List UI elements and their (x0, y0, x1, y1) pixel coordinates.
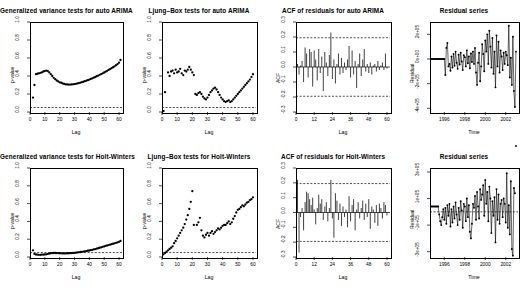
y-tick-label: 0.4 (15, 65, 20, 83)
plot-canvas (0, 0, 132, 146)
y-tick-label: 1.0 (15, 157, 20, 175)
y-tick-label: -2e+05 (415, 72, 420, 90)
y-tick-label: 1.0 (15, 11, 20, 29)
y-tick-label: 1.0 (147, 11, 152, 29)
x-tick-label: 60 (105, 262, 133, 267)
panel-acf-hw: ACF of residuals for Holt-Winters0122436… (266, 146, 400, 291)
panel-acf-arima: ACF of residuals for auto ARIMA012243648… (266, 0, 400, 146)
y-tick-label: 0.4 (15, 210, 20, 228)
y-tick-label: 0.8 (15, 174, 20, 192)
y-tick-label: 0.2 (15, 83, 20, 101)
y-axis-label: p-value (9, 212, 15, 228)
x-axis-label: Lag (30, 274, 122, 280)
y-tick-label: 0.8 (147, 174, 152, 192)
y-tick-label: 0.4 (147, 210, 152, 228)
panel-gv-arima: Generalized variance tests for auto ARIM… (0, 0, 132, 146)
y-tick-label: 0.2 (147, 228, 152, 246)
y-tick-label: 0.6 (15, 47, 20, 65)
y-axis-label: Residual (409, 64, 415, 83)
plot-canvas (266, 0, 400, 146)
x-tick-label: 2002 (492, 262, 520, 267)
y-axis-label: p-value (141, 67, 147, 83)
y-tick-label: 0.3 (281, 157, 286, 175)
y-tick-label: 0.2 (15, 228, 20, 246)
y-axis-label: p-value (9, 67, 15, 83)
panel-gv-hw: Generalized variance tests for Holt-Wint… (0, 146, 132, 291)
y-tick-label: 1.0 (147, 157, 152, 175)
x-axis-label: Time (430, 274, 518, 280)
x-axis-label: Time (430, 129, 518, 135)
y-tick-label: 0.6 (147, 192, 152, 210)
plot-canvas (132, 146, 266, 291)
panel-resid-arima: Residual series1996199820002002-4e+05-2e… (400, 0, 528, 146)
y-tick-label: 0.0 (147, 101, 152, 119)
x-tick-label: 60 (373, 262, 401, 267)
y-tick-label: 0.0 (15, 101, 20, 119)
y-tick-label: -4e+05 (415, 97, 420, 115)
x-axis-label: Lag (162, 274, 256, 280)
y-tick-label: 0.3 (281, 11, 286, 29)
y-tick-label: 0.0 (147, 246, 152, 264)
x-tick-label: 2002 (492, 117, 520, 122)
y-tick-label: 2e+05 (415, 23, 420, 41)
diagnostic-plot-grid: Generalized variance tests for auto ARIM… (0, 0, 528, 291)
y-tick-label: -3e+05 (415, 240, 420, 258)
y-tick-label: 0.4 (147, 65, 152, 83)
y-tick-label: 0.8 (147, 29, 152, 47)
plot-canvas (266, 146, 400, 291)
y-tick-label: 0.2 (147, 83, 152, 101)
x-axis-label: Lag (30, 129, 122, 135)
y-axis-label: ACF (275, 219, 281, 229)
x-axis-label: Lag (296, 129, 390, 135)
x-tick-label: 60 (239, 117, 267, 122)
panel-lb-arima: Ljung–Box tests for auto ARIMA0102030405… (132, 0, 266, 146)
panel-resid-hw: Residual series1996199820002002-3e+05-1e… (400, 146, 528, 291)
x-tick-label: 60 (373, 117, 401, 122)
y-axis-label: Residual (409, 209, 415, 228)
y-tick-label: 0.0 (15, 246, 20, 264)
y-axis-label: ACF (275, 73, 281, 83)
x-axis-label: Lag (162, 129, 256, 135)
panel-lb-hw: Ljung–Box tests for Holt-Winters01020304… (132, 146, 266, 291)
y-axis-label: p-value (141, 212, 147, 228)
y-tick-label: 0.6 (15, 192, 20, 210)
y-tick-label: -1e+05 (415, 214, 420, 232)
y-tick-label: 0.6 (147, 47, 152, 65)
y-tick-label: 0.8 (15, 29, 20, 47)
y-tick-label: 1e+05 (415, 187, 420, 205)
y-tick-label: 0e+00 (415, 47, 420, 65)
y-tick-label: 3e+05 (415, 160, 420, 178)
plot-canvas (132, 0, 266, 146)
x-tick-label: 60 (239, 262, 267, 267)
x-tick-label: 60 (105, 117, 133, 122)
x-axis-label: Lag (296, 274, 390, 280)
plot-canvas (0, 146, 132, 291)
